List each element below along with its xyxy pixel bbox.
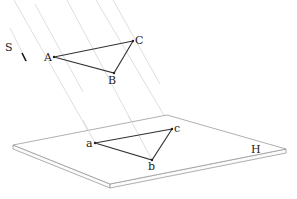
vertex-label-c: C <box>135 34 143 47</box>
vertex-label-b-proj: b <box>148 160 155 173</box>
object-triangle <box>53 40 134 74</box>
direction-arrow <box>22 53 26 61</box>
plane-label-h: H <box>251 143 261 156</box>
triangle-abc <box>54 41 133 73</box>
projection-line-c <box>96 0 172 129</box>
vertex-c-proj-dot <box>171 128 173 130</box>
vertex-c-dot <box>132 40 134 42</box>
direction-label-s: S <box>5 41 13 54</box>
vertex-a-dot <box>53 56 55 58</box>
projection-line-a <box>14 0 95 143</box>
plane-top-face <box>13 115 286 184</box>
vertex-label-a: A <box>43 51 53 64</box>
vertex-label-b: B <box>108 74 116 87</box>
plane-h <box>13 115 286 188</box>
vertex-label-c-proj: c <box>174 122 180 135</box>
projection-diagram: S A B C a b c H <box>0 0 297 199</box>
direction-arrow-shaft <box>22 53 26 61</box>
vertex-a-proj-dot <box>94 142 96 144</box>
vertex-label-a-proj: a <box>86 137 93 150</box>
